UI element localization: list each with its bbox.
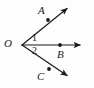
point-label-B: B — [57, 49, 64, 60]
angle-label-1: 1 — [32, 33, 37, 43]
point-label-C: C — [37, 71, 44, 82]
diagram-canvas — [0, 0, 94, 88]
point-label-O: O — [4, 38, 12, 49]
point-dot-A — [46, 18, 50, 22]
angle-label-2: 2 — [32, 46, 37, 56]
geometry-diagram: O A B C 1 2 — [0, 0, 94, 88]
point-label-A: A — [38, 5, 45, 16]
point-dot-B — [58, 43, 62, 47]
point-dot-C — [47, 67, 51, 71]
